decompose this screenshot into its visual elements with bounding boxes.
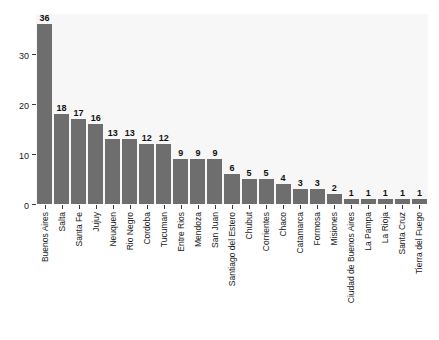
x-axis-tick: La Rioja bbox=[377, 204, 394, 340]
x-axis-label-wrap: Tierra del Fuego bbox=[419, 92, 431, 212]
x-axis-label-wrap: Chaco bbox=[283, 92, 295, 212]
x-axis-tick-label: Chaco bbox=[277, 212, 289, 332]
x-axis-label-wrap: Formosa bbox=[317, 92, 329, 212]
y-axis-tick: 20 bbox=[19, 99, 36, 109]
x-axis-tick: Corrientes bbox=[258, 204, 275, 340]
x-axis-tick: Formosa bbox=[309, 204, 326, 340]
x-axis-label-wrap: La Rioja bbox=[385, 92, 397, 212]
x-axis-label-wrap: Ciudad de Buenos Aires bbox=[351, 92, 363, 212]
x-axis-tick-label: Tierra del Fuego bbox=[413, 212, 425, 332]
x-axis: Buenos AiresSaltaSanta FeJujuyNeuquenRio… bbox=[36, 204, 428, 340]
x-axis-tick: Entre Rios bbox=[172, 204, 189, 340]
y-axis-tick-label: 0 bbox=[24, 201, 32, 211]
x-axis-label-wrap: Mendoza bbox=[198, 92, 210, 212]
x-axis-label-wrap: Buenos Aires bbox=[45, 92, 57, 212]
x-axis-label-wrap: San Juan bbox=[215, 92, 227, 212]
x-axis-tick: Cordoba bbox=[138, 204, 155, 340]
x-axis-tick-label: Entre Rios bbox=[175, 212, 187, 332]
x-axis-tick-label: Buenos Aires bbox=[39, 212, 51, 332]
y-axis-tick-label: 30 bbox=[19, 51, 32, 61]
x-axis-tick-label: Tucuman bbox=[158, 212, 170, 332]
x-axis-tick: Buenos Aires bbox=[36, 204, 53, 340]
x-axis-tick-label: La Pampa bbox=[362, 212, 374, 332]
y-axis-tick: 0 bbox=[24, 199, 36, 209]
x-axis-tick-label: Ciudad de Buenos Aires bbox=[345, 212, 357, 332]
x-axis-label-wrap: Cordoba bbox=[147, 92, 159, 212]
x-axis-tick: Mendoza bbox=[189, 204, 206, 340]
x-axis-label-wrap: Santa Fe bbox=[79, 92, 91, 212]
x-axis-tick: Chaco bbox=[275, 204, 292, 340]
x-axis-label-wrap: Rio Negro bbox=[130, 92, 142, 212]
x-axis-label-wrap: Neuquen bbox=[113, 92, 125, 212]
x-axis-tick: Santa Cruz bbox=[394, 204, 411, 340]
x-axis-tick: San Juan bbox=[206, 204, 223, 340]
x-axis-tick-label: Cordoba bbox=[141, 212, 153, 332]
y-axis-tick-label: 20 bbox=[19, 101, 32, 111]
x-axis-tick: Chubut bbox=[241, 204, 258, 340]
x-axis-tick-label: Santa Fe bbox=[73, 212, 85, 332]
x-axis-tick-label: Formosa bbox=[311, 212, 323, 332]
x-axis-label-wrap: Salta bbox=[62, 92, 74, 212]
x-axis-label-wrap: Tucuman bbox=[164, 92, 176, 212]
x-axis-tick-label: Mendoza bbox=[192, 212, 204, 332]
x-axis-tick-label: Rio Negro bbox=[124, 212, 136, 332]
y-axis-tick-label: 10 bbox=[19, 151, 32, 161]
x-axis-tick: Jujuy bbox=[87, 204, 104, 340]
x-axis-label-wrap: La Pampa bbox=[368, 92, 380, 212]
x-axis-tick: Catamarca bbox=[292, 204, 309, 340]
x-axis-label-wrap: Santiago del Estero bbox=[232, 92, 244, 212]
y-axis-tick: 10 bbox=[19, 149, 36, 159]
x-axis-tick-label: Corrientes bbox=[260, 212, 272, 332]
x-axis-tick: Ciudad de Buenos Aires bbox=[343, 204, 360, 340]
x-axis-tick-label: Misiones bbox=[328, 212, 340, 332]
y-axis-tick: 30 bbox=[19, 49, 36, 59]
x-axis-tick: Santa Fe bbox=[70, 204, 87, 340]
bar-value-label: 36 bbox=[36, 13, 53, 23]
x-axis-tick-label: Jujuy bbox=[90, 212, 102, 332]
y-axis: 0102030 bbox=[0, 14, 36, 204]
x-axis-tick-label: Catamarca bbox=[294, 212, 306, 332]
x-axis-label-wrap: Corrientes bbox=[266, 92, 278, 212]
x-axis-label-wrap: Misiones bbox=[334, 92, 346, 212]
x-axis-tick-label: San Juan bbox=[209, 212, 221, 332]
x-axis-tick: Rio Negro bbox=[121, 204, 138, 340]
x-axis-tick: La Pampa bbox=[360, 204, 377, 340]
x-axis-tick-label: Santa Cruz bbox=[396, 212, 408, 332]
x-axis-tick: Santiago del Estero bbox=[223, 204, 240, 340]
x-axis-tick-label: La Rioja bbox=[379, 212, 391, 332]
x-axis-tick-label: Neuquen bbox=[107, 212, 119, 332]
x-axis-label-wrap: Jujuy bbox=[96, 92, 108, 212]
x-axis-tick: Neuquen bbox=[104, 204, 121, 340]
x-axis-tick: Tucuman bbox=[155, 204, 172, 340]
bar-chart: 0102030 3618171613131212999655433211111 … bbox=[0, 0, 439, 340]
x-axis-tick: Tierra del Fuego bbox=[411, 204, 428, 340]
x-axis-label-wrap: Santa Cruz bbox=[402, 92, 414, 212]
x-axis-label-wrap: Catamarca bbox=[300, 92, 312, 212]
x-axis-label-wrap: Entre Rios bbox=[181, 92, 193, 212]
x-axis-tick-label: Salta bbox=[56, 212, 68, 332]
x-axis-tick: Salta bbox=[53, 204, 70, 340]
x-axis-tick-label: Chubut bbox=[243, 212, 255, 332]
x-axis-label-wrap: Chubut bbox=[249, 92, 261, 212]
x-axis-tick: Misiones bbox=[326, 204, 343, 340]
x-axis-tick-label: Santiago del Estero bbox=[226, 212, 238, 332]
